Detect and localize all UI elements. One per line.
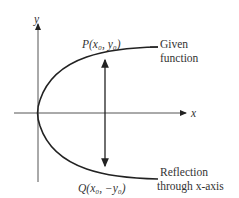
- point-p-label: P(x₀, y₀): [82, 38, 121, 50]
- reflection-label-line1: Reflection: [160, 166, 208, 178]
- reflection-label-line2: through x-axis: [157, 180, 224, 192]
- point-q-label: Q(x₀, −y₀): [78, 182, 126, 194]
- given-label-line2: function: [160, 52, 198, 64]
- curve-reflection: [40, 126, 158, 179]
- curve-given-function: [38, 47, 158, 126]
- given-label-line1: Given: [160, 38, 188, 50]
- y-axis-label: y: [34, 13, 39, 25]
- x-axis-label: x: [191, 107, 196, 119]
